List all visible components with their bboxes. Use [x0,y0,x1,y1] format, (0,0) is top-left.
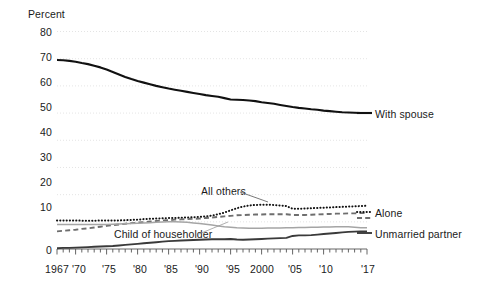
plot-svg [0,0,491,287]
chart-container: Percent 80 70 60 50 40 30 20 10 0 1967 '… [0,0,491,287]
